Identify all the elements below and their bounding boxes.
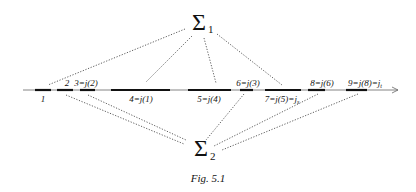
connector-sigma1-seg1 (48, 29, 185, 85)
segment-label-7: 7=j(5)=js (265, 94, 300, 105)
segment-label-6: 6=j(3) (236, 78, 260, 88)
connector-sigma2-seg2 (66, 95, 184, 144)
segment-label-5: 5=j(4) (197, 94, 221, 104)
segment-label-8: 8=j(6) (310, 78, 334, 88)
svg-text:Σ: Σ (194, 135, 208, 161)
segment-label-9: 9=j(8)=jt (348, 78, 382, 89)
svg-text:2: 2 (210, 150, 216, 162)
figure-caption: Fig. 5.1 (190, 172, 226, 184)
svg-text:Σ: Σ (192, 9, 206, 35)
svg-text:1: 1 (208, 23, 214, 35)
segment-label-4: 4=j(1) (129, 94, 153, 104)
connector-sigma1-seg4 (146, 36, 192, 82)
top-connectors (48, 29, 282, 85)
segment-label-1: 1 (41, 94, 46, 104)
segment-label-3: 3=j(2) (73, 78, 98, 88)
figure-diagram: 1 2 3=j(2) 4=j(1) 5=j(4) 6=j(3) 7=j(5)=j… (0, 0, 416, 192)
connector-sigma1-seg5 (204, 38, 216, 83)
sigma-2-node: Σ 2 (194, 135, 216, 162)
segment-label-2: 2 (65, 78, 70, 88)
sigma-1-node: Σ 1 (192, 9, 214, 35)
